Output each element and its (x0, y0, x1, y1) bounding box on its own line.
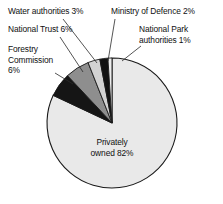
slice-label-ministry-of-defence: Ministry of Defence 2% (111, 6, 195, 17)
slice-label-water-authorities: Water authorities 3% (8, 6, 83, 17)
leader-line-national-trust (60, 37, 83, 72)
pie-slices (47, 58, 177, 188)
slice-label-privately-owned: Privately owned 82% (79, 137, 145, 158)
slice-label-national-park-authorities: National Park authorities 1% (139, 24, 191, 45)
pie-chart-figure: Water authorities 3% Ministry of Defence… (0, 0, 223, 204)
leader-line-ministry-of-defence (108, 19, 115, 61)
slice-label-national-trust: National Trust 6% (8, 24, 72, 35)
leader-line-national-park-authorities (122, 46, 141, 61)
slice-label-forestry-commission: Forestry Commission 6% (8, 44, 53, 76)
